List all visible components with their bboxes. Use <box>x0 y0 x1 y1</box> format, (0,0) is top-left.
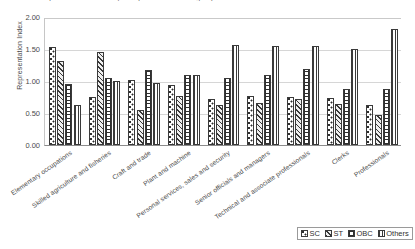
bar-st[interactable] <box>137 110 144 145</box>
bar-group <box>283 18 323 145</box>
bar-sc[interactable] <box>128 80 135 145</box>
bar-others[interactable] <box>272 46 279 145</box>
bar-obc[interactable] <box>65 84 72 145</box>
bar-sc[interactable] <box>168 85 175 145</box>
bar-chart: Representation Index by occupation and s… <box>0 0 415 249</box>
bar-group <box>204 18 244 145</box>
legend-swatch-icon <box>325 230 332 237</box>
bar-st[interactable] <box>295 99 302 145</box>
y-tick-label: 2.00 <box>10 14 40 21</box>
bar-st[interactable] <box>256 103 263 145</box>
bar-st[interactable] <box>216 105 223 145</box>
y-tick-label: 0.50 <box>10 110 40 117</box>
bar-group <box>362 18 402 145</box>
legend-swatch-icon <box>301 230 308 237</box>
bar-obc[interactable] <box>383 89 390 145</box>
bar-others[interactable] <box>351 49 358 145</box>
bar-group <box>45 18 85 145</box>
legend-label: Others <box>386 229 409 238</box>
bar-obc[interactable] <box>264 75 271 145</box>
bar-sc[interactable] <box>49 47 56 145</box>
bar-sc[interactable] <box>327 98 334 145</box>
bar-sc[interactable] <box>89 97 96 145</box>
bar-st[interactable] <box>57 61 64 145</box>
bar-obc[interactable] <box>145 70 152 145</box>
bar-st[interactable] <box>176 96 183 145</box>
legend-item-obc[interactable]: OBC <box>348 229 373 238</box>
bar-others[interactable] <box>193 75 200 145</box>
bar-sc[interactable] <box>247 96 254 145</box>
bar-group <box>323 18 363 145</box>
legend-swatch-icon <box>378 230 385 237</box>
legend-label: ST <box>333 229 343 238</box>
bar-group <box>243 18 283 145</box>
bar-others[interactable] <box>74 105 81 145</box>
legend-label: SC <box>310 229 320 238</box>
plot-area <box>44 18 401 146</box>
bar-st[interactable] <box>97 52 104 145</box>
legend[interactable]: SCSTOBCOthers <box>297 227 413 240</box>
y-tick-label: 1.50 <box>10 46 40 53</box>
bar-sc[interactable] <box>208 99 215 145</box>
bar-group <box>85 18 125 145</box>
bar-obc[interactable] <box>224 78 231 145</box>
bar-sc[interactable] <box>366 105 373 145</box>
legend-item-others[interactable]: Others <box>378 229 409 238</box>
bar-obc[interactable] <box>343 89 350 145</box>
bar-others[interactable] <box>113 81 120 145</box>
bar-group <box>124 18 164 145</box>
bar-others[interactable] <box>153 83 160 145</box>
legend-label: OBC <box>357 229 373 238</box>
bar-st[interactable] <box>335 104 342 145</box>
chart-title: Representation Index by occupation and s… <box>40 0 290 1</box>
bar-st[interactable] <box>375 115 382 145</box>
bar-obc[interactable] <box>184 75 191 145</box>
bar-obc[interactable] <box>303 69 310 145</box>
bar-obc[interactable] <box>105 78 112 145</box>
legend-item-st[interactable]: ST <box>325 229 343 238</box>
bar-sc[interactable] <box>287 97 294 145</box>
legend-item-sc[interactable]: SC <box>301 229 320 238</box>
y-tick-label: 0.00 <box>10 142 40 149</box>
y-tick-label: 1.00 <box>10 78 40 85</box>
bar-others[interactable] <box>391 29 398 145</box>
bar-others[interactable] <box>232 45 239 145</box>
legend-swatch-icon <box>348 230 355 237</box>
bar-group <box>164 18 204 145</box>
bar-others[interactable] <box>312 46 319 145</box>
